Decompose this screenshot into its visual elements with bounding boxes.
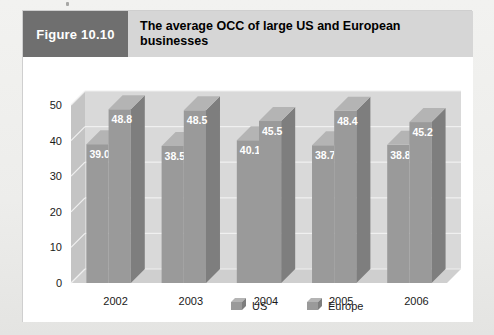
chart-body: 39.048.838.548.540.145.538.748.438.845.2… — [23, 57, 473, 322]
scan-artifact-dot — [66, 2, 69, 6]
y-axis: 01020304050 — [50, 99, 62, 289]
y-axis-tick-label: 10 — [50, 241, 62, 253]
y-axis-tick-label: 40 — [50, 135, 62, 147]
bar-value-label: 38.7 — [315, 149, 336, 161]
x-axis-category-label: 2002 — [103, 295, 127, 307]
figure-title-box: The average OCC of large US and European… — [128, 11, 473, 57]
bar-front-face — [162, 146, 184, 283]
figure-card: Figure 10.10 The average OCC of large US… — [22, 10, 472, 322]
bar-chart: 39.048.838.548.540.145.538.748.438.845.2… — [23, 57, 473, 322]
y-axis-tick-label: 20 — [50, 206, 62, 218]
y-axis-tick-label: 0 — [56, 277, 62, 289]
bar-front-face — [259, 121, 281, 283]
figure-number-label: Figure 10.10 — [36, 27, 114, 42]
bar-value-label: 48.4 — [337, 115, 358, 127]
legend-item: Europe — [307, 298, 363, 312]
bar-front-face — [312, 145, 334, 283]
bar-front-face — [387, 145, 409, 283]
bar-front-face — [237, 140, 259, 283]
y-axis-tick-label: 30 — [50, 170, 62, 182]
bar-side-face — [131, 95, 145, 283]
x-axis-category-label: 2003 — [179, 295, 203, 307]
figure-title: The average OCC of large US and European… — [140, 19, 463, 49]
bar-front-face — [334, 111, 356, 283]
bar-value-label: 48.8 — [112, 113, 133, 125]
legend-swatch-front — [307, 302, 318, 310]
chart-legend: USEurope — [231, 298, 363, 312]
bar-side-face — [432, 108, 446, 283]
bar-front-face — [109, 109, 131, 283]
bar-value-label: 38.5 — [165, 150, 186, 162]
bar-front-face — [184, 110, 206, 283]
figure-header: Figure 10.10 The average OCC of large US… — [23, 11, 473, 57]
bar-value-label: 38.8 — [390, 149, 411, 161]
bar-side-face — [281, 107, 295, 283]
bar-front-face — [409, 122, 431, 283]
legend-label: Europe — [328, 300, 363, 312]
bar-value-label: 39.0 — [89, 148, 110, 160]
bar-value-label: 45.2 — [412, 126, 433, 138]
legend-item: US — [231, 298, 267, 312]
bar-value-label: 40.1 — [240, 144, 261, 156]
figure-number-box: Figure 10.10 — [23, 11, 128, 57]
bar-side-face — [356, 97, 370, 283]
legend-swatch-front — [231, 302, 242, 310]
legend-label: US — [252, 300, 267, 312]
bar-value-label: 45.5 — [262, 125, 283, 137]
x-axis-category-label: 2006 — [404, 295, 428, 307]
bar-front-face — [86, 144, 108, 283]
bar-side-face — [206, 96, 220, 283]
bar-value-label: 48.5 — [187, 114, 208, 126]
y-axis-tick-label: 50 — [50, 99, 62, 111]
